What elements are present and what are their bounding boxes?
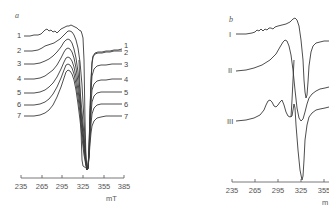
tick-355: 355 [98, 182, 111, 191]
left-label-2: 2 [17, 46, 21, 55]
epr-spectra-figure: a 1 2 3 4 5 6 7 [0, 0, 329, 214]
panel-b-left-labels: I II III [227, 30, 233, 126]
tick-325: 325 [77, 182, 90, 191]
left-label-7: 7 [17, 111, 21, 120]
panel-a-label: a [15, 11, 19, 20]
tick-325: 325 [295, 186, 308, 195]
tick-355: 355 [318, 186, 329, 195]
x-axis-unit: mT [106, 194, 117, 203]
curve-II [236, 40, 329, 121]
panel-a-right-labels: 1 2 3 4 5 6 7 [124, 41, 128, 121]
panel-a-x-axis: 235 265 295 325 355 385 mT [15, 175, 131, 203]
panel-b-x-axis: 235 265 295 325 355 m [226, 179, 329, 207]
panel-a-curves [24, 25, 122, 170]
left-label-I: I [229, 30, 231, 39]
left-label-6: 6 [17, 100, 21, 109]
tick-295: 295 [272, 186, 285, 195]
panel-b-curves [236, 18, 329, 180]
curve-2 [24, 31, 122, 170]
curve-III [236, 100, 329, 180]
curve-5 [24, 57, 122, 170]
panel-a-left-labels: 1 2 3 4 5 6 7 [17, 31, 21, 120]
x-axis-unit: m [322, 198, 328, 207]
left-label-III: III [227, 117, 233, 126]
tick-295: 295 [56, 182, 69, 191]
right-label-3: 3 [124, 60, 128, 69]
panel-b: b I II III 235 265 295 325 [226, 15, 329, 207]
curve-I [236, 18, 329, 98]
right-label-6: 6 [124, 100, 128, 109]
left-label-4: 4 [17, 74, 21, 83]
left-label-II: II [228, 66, 232, 75]
tick-235: 235 [15, 182, 28, 191]
right-label-2: 2 [124, 48, 128, 57]
panel-a: a 1 2 3 4 5 6 7 [15, 11, 131, 203]
tick-235: 235 [226, 186, 239, 195]
curve-4 [24, 48, 122, 170]
tick-265: 265 [36, 182, 49, 191]
curve-7 [24, 70, 122, 170]
right-label-5: 5 [124, 88, 128, 97]
panel-b-label: b [229, 15, 233, 24]
right-label-4: 4 [124, 75, 128, 84]
right-label-7: 7 [124, 112, 128, 121]
left-label-1: 1 [17, 31, 21, 40]
tick-265: 265 [249, 186, 262, 195]
left-label-5: 5 [17, 88, 21, 97]
left-label-3: 3 [17, 59, 21, 68]
tick-385: 385 [118, 182, 131, 191]
